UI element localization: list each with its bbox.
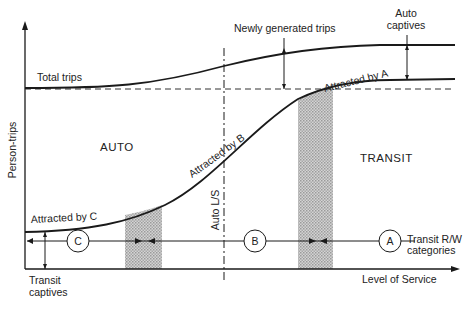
x-axis-arrow-icon xyxy=(451,266,460,272)
attracted-by-b-label: Attracted by B xyxy=(186,131,246,179)
x-axis-label: Level of Service xyxy=(362,273,437,285)
category-c: C xyxy=(67,230,89,252)
total-trips-curve xyxy=(25,45,455,88)
transit-captives-label: Transit xyxy=(29,274,61,286)
auto-region-label: AUTO xyxy=(100,141,134,153)
category-c-label: C xyxy=(74,235,82,247)
attracted-by-a-label: Attracted by A xyxy=(323,66,389,93)
transit-captives-label-2: captives xyxy=(29,286,68,298)
y-axis-label: Person-trips xyxy=(6,122,18,179)
attracted-by-c-label: Attracted by C xyxy=(30,210,97,225)
arrow-left-icon xyxy=(27,238,33,244)
x-axis xyxy=(25,266,460,272)
transit-rw-label-2: categories xyxy=(407,244,455,256)
category-b-label: B xyxy=(251,235,258,247)
category-a-label: A xyxy=(386,235,393,247)
auto-captives-label-2: captives xyxy=(387,19,426,31)
y-axis-arrow-icon xyxy=(22,21,28,30)
auto-captives-label: Auto xyxy=(395,7,417,19)
newly-generated-label: Newly generated trips xyxy=(234,22,336,34)
category-a: A xyxy=(379,230,401,252)
auto-ls-label: Auto L/S xyxy=(209,190,221,230)
category-b: B xyxy=(244,230,266,252)
total-trips-label: Total trips xyxy=(37,71,82,83)
transit-region-label: TRANSIT xyxy=(360,152,413,164)
mode-split-diagram: C B A Person-trips Level of Service Tota… xyxy=(0,0,473,309)
